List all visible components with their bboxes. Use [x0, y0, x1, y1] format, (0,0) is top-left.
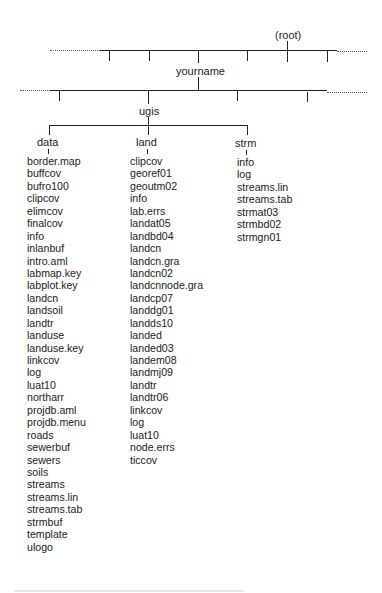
file-item: geoutm02	[130, 180, 203, 192]
file-item: landed03	[130, 342, 203, 354]
land-tick	[147, 149, 148, 154]
file-item: landcn02	[130, 267, 203, 279]
bracket-drop-strm	[247, 125, 248, 135]
bracket-drop-data	[49, 125, 50, 135]
root-level-line-dotted-right	[337, 51, 367, 52]
file-item: northarr	[27, 391, 86, 403]
root-tick	[247, 50, 248, 61]
file-item: strmbd02	[237, 218, 292, 230]
file-item: soils	[27, 466, 86, 478]
level1-line	[50, 90, 327, 91]
file-list-land: clipcovgeoref01geoutm02infolab.errslanda…	[130, 155, 203, 466]
file-item: landat05	[130, 217, 203, 229]
root-tick	[109, 50, 110, 61]
file-item: finalcov	[27, 217, 86, 229]
file-item: info	[237, 156, 292, 168]
file-item: elimcov	[27, 205, 86, 217]
yourname-connector-down	[198, 77, 199, 91]
file-item: landcp07	[130, 292, 203, 304]
file-item: streams.lin	[27, 491, 86, 503]
file-item: linkcov	[130, 404, 203, 416]
file-item: landtr	[27, 317, 86, 329]
file-item: landed	[130, 329, 203, 341]
file-item: landcn	[130, 242, 203, 254]
ugis-connector-up	[148, 91, 149, 104]
file-item: streams.lin	[237, 181, 292, 193]
file-item: landtr	[130, 379, 203, 391]
footer-rule	[14, 590, 244, 592]
file-item: landcnnode.gra	[130, 279, 203, 291]
file-list-data: border.mapbuffcovbufro100clipcovelimcovf…	[27, 155, 86, 553]
file-item: lab.errs	[130, 205, 203, 217]
file-item: intro.aml	[27, 255, 86, 267]
file-item: strmat03	[237, 206, 292, 218]
bracket-drop-land	[148, 125, 149, 135]
file-item: projdb.aml	[27, 404, 86, 416]
data-tick	[48, 149, 49, 154]
file-item: log	[130, 416, 203, 428]
level1-tick	[237, 91, 238, 101]
yourname-label: yourname	[176, 65, 225, 77]
file-item: ticcov	[130, 454, 203, 466]
file-item: luat10	[130, 429, 203, 441]
file-item: inlanbuf	[27, 242, 86, 254]
level1-tick	[59, 91, 60, 101]
file-item: landtr06	[130, 391, 203, 403]
level1-tick	[307, 92, 308, 102]
file-item: streams	[27, 478, 86, 490]
file-item: strmgn01	[237, 231, 292, 243]
file-item: landbd04	[130, 230, 203, 242]
file-list-strm: infologstreams.linstreams.tabstrmat03str…	[237, 156, 292, 243]
file-item: strmbuf	[27, 516, 86, 528]
file-item: sewers	[27, 454, 86, 466]
file-item: clipcov	[27, 192, 86, 204]
root-tick	[149, 50, 150, 61]
file-item: landem08	[130, 354, 203, 366]
root-connector	[287, 41, 288, 62]
strm-tick	[246, 150, 247, 155]
file-item: border.map	[27, 155, 86, 167]
file-item: ulogo	[27, 541, 86, 553]
folder-label-land: land	[136, 136, 157, 148]
file-item: luat10	[27, 379, 86, 391]
root-level-line-dotted-left	[50, 50, 100, 51]
file-item: landuse.key	[27, 342, 86, 354]
file-item: landcn.gra	[130, 255, 203, 267]
file-item: landsoil	[27, 304, 86, 316]
file-item: landds10	[130, 317, 203, 329]
file-item: landuse	[27, 329, 86, 341]
file-item: linkcov	[27, 354, 86, 366]
level1-line-dotted-left	[20, 90, 50, 91]
file-item: projdb.menu	[27, 416, 86, 428]
folder-label-strm: strm	[235, 137, 256, 149]
ugis-label: ugis	[139, 105, 159, 117]
file-item: buffcov	[27, 167, 86, 179]
file-item: landdg01	[130, 304, 203, 316]
folder-label-data: data	[37, 136, 58, 148]
root-tick	[327, 51, 328, 62]
file-item: streams.tab	[27, 503, 86, 515]
file-item: info	[130, 192, 203, 204]
level1-line-dotted-right	[327, 92, 367, 93]
file-item: info	[27, 230, 86, 242]
file-item: roads	[27, 429, 86, 441]
file-item: clipcov	[130, 155, 203, 167]
file-item: streams.tab	[237, 193, 292, 205]
file-item: labplot.key	[27, 279, 86, 291]
file-item: labmap.key	[27, 267, 86, 279]
file-item: georef01	[130, 167, 203, 179]
file-item: log	[27, 366, 86, 378]
file-item: bufro100	[27, 180, 86, 192]
file-item: log	[237, 168, 292, 180]
yourname-connector-up	[198, 50, 199, 63]
file-item: sewerbuf	[27, 441, 86, 453]
file-item: template	[27, 528, 86, 540]
file-item: landmj09	[130, 366, 203, 378]
root-label: (root)	[275, 29, 301, 41]
file-item: landcn	[27, 292, 86, 304]
root-level-line	[100, 50, 337, 51]
file-item: node.errs	[130, 441, 203, 453]
